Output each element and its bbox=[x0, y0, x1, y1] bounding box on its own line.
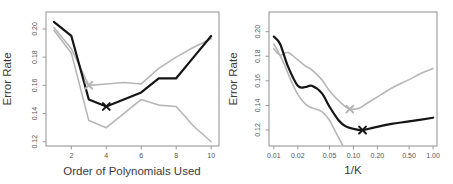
x-axis-tick-label: 0.02 bbox=[291, 152, 305, 159]
left-plot-svg: 2468100.120.140.160.180.20 Order of Poly… bbox=[0, 0, 226, 184]
series-path-black-line bbox=[54, 22, 211, 107]
y-axis-tick-label: 0.12 bbox=[31, 135, 38, 149]
x-axis-tick-label: 1.00 bbox=[426, 152, 440, 159]
x-axis-tick-label: 0.05 bbox=[323, 152, 337, 159]
right-x-axis-label: 1/K bbox=[344, 164, 362, 176]
x-axis-tick-label: 0.20 bbox=[371, 152, 385, 159]
left-plot-panel: 2468100.120.140.160.180.20 Order of Poly… bbox=[0, 0, 226, 184]
right-plot-svg: 0.010.020.050.100.200.501.000.120.140.16… bbox=[226, 0, 453, 184]
x-axis-tick-label: 4 bbox=[104, 152, 108, 159]
series-path-gray-line-lower bbox=[54, 30, 211, 141]
right-plot-panel: 0.010.020.050.100.200.501.000.120.140.16… bbox=[226, 0, 453, 184]
left-plot-area: 2468100.120.140.160.180.20 bbox=[31, 12, 219, 159]
y-axis-tick-label: 0.20 bbox=[254, 25, 261, 39]
y-axis-tick-label: 0.18 bbox=[254, 49, 261, 63]
x-axis-tick-label: 8 bbox=[174, 152, 178, 159]
y-axis-tick-label: 0.20 bbox=[31, 22, 38, 36]
y-axis-tick-label: 0.14 bbox=[31, 107, 38, 121]
x-axis-tick-label: 0.01 bbox=[267, 152, 281, 159]
series-path-gray-line-upper bbox=[274, 49, 433, 110]
x-axis-tick-label: 0.10 bbox=[347, 152, 361, 159]
x-axis-tick-label: 0.50 bbox=[402, 152, 416, 159]
x-axis-tick-label: 6 bbox=[139, 152, 143, 159]
x-axis-tick-label: 10 bbox=[207, 152, 215, 159]
right-y-axis-label: Error Rate bbox=[227, 52, 239, 105]
y-axis-tick-label: 0.14 bbox=[254, 99, 261, 113]
right-plot-area: 0.010.020.050.100.200.501.000.120.140.16… bbox=[254, 12, 440, 159]
y-axis-tick-label: 0.18 bbox=[31, 50, 38, 64]
y-axis-tick-label: 0.12 bbox=[254, 123, 261, 137]
x-axis-tick-label: 2 bbox=[69, 152, 73, 159]
series-path-black-line bbox=[274, 37, 433, 130]
y-axis-tick-label: 0.16 bbox=[31, 78, 38, 92]
cv-error-rate-figure: 2468100.120.140.160.180.20 Order of Poly… bbox=[0, 0, 453, 184]
left-y-axis-label: Error Rate bbox=[1, 52, 13, 105]
y-axis-tick-label: 0.16 bbox=[254, 74, 261, 88]
left-x-axis-label: Order of Polynomials Used bbox=[63, 165, 200, 177]
